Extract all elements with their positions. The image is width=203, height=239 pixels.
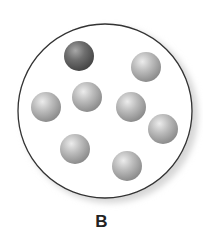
particle-diagram [0,0,203,239]
diagram-label: B [0,212,203,232]
light-particle [112,151,142,181]
dark-particle [64,41,94,71]
light-particle [116,92,146,122]
light-particle [31,92,61,122]
light-particle [148,114,178,144]
light-particle [72,82,102,112]
light-particle [131,52,161,82]
light-particle [60,134,90,164]
